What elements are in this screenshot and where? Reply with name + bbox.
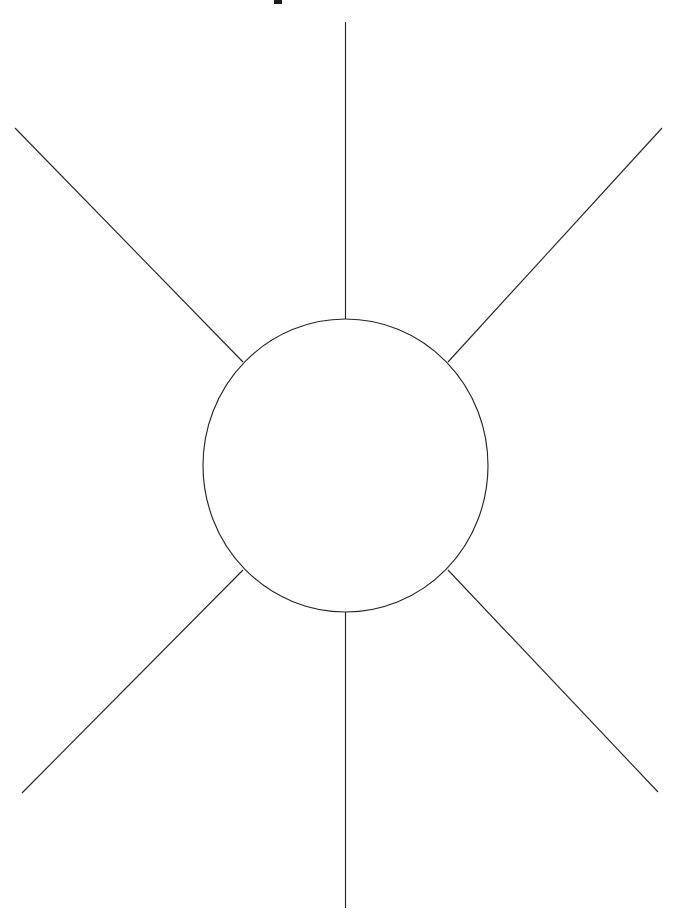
diagram-canvas: Radiating Circle Line Diagram A single t…: [0, 0, 678, 915]
cropped-glyph-remnant-mark: [274, 0, 282, 4]
radiating-circle-diagram: [0, 0, 678, 915]
background-rect: [0, 0, 678, 915]
